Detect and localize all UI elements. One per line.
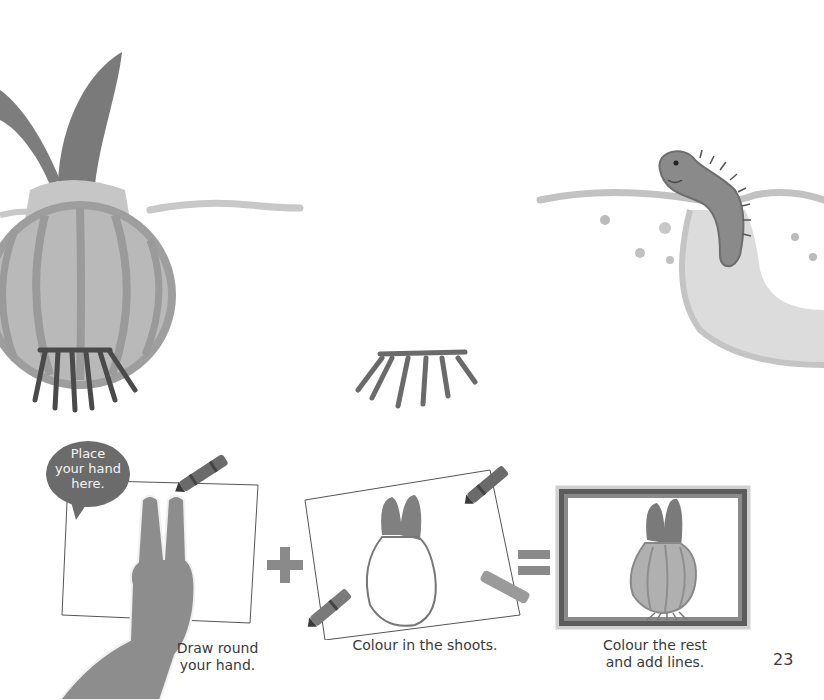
speech-bubble-line: your hand [42,461,134,476]
plus-icon [265,545,305,585]
step-3-caption: Colour the rest and add lines. [585,637,725,671]
crayon-icon [460,460,515,510]
sprouting-onion-illustration [0,40,310,420]
equals-icon [518,548,550,578]
speech-bubble-line: here. [42,476,134,491]
step-2-caption: Colour in the shoots. [330,637,520,654]
step-1-caption: Draw round your hand. [160,640,275,674]
caption-line: and add lines. [585,654,725,671]
caption-line: Draw round [160,640,275,657]
speech-bubble: Place your hand here. [42,440,134,522]
crayon-icon [303,583,358,633]
worm-in-soil-illustration [530,140,824,380]
caption-line: Colour the rest [585,637,725,654]
step-3-framed-picture [555,485,751,630]
caption-line: your hand. [160,657,275,674]
onion-roots-illustration [350,340,480,410]
speech-bubble-line: Place [42,446,134,461]
page-number: 23 [773,650,793,669]
